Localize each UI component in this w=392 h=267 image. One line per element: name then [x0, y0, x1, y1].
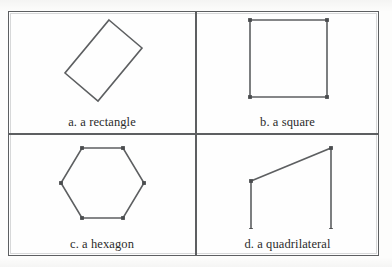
figure-cell-c: c. a hexagon [9, 135, 195, 255]
figure-cell-b: b. a square [197, 12, 378, 133]
square-svg [197, 12, 378, 107]
vertex-dot [121, 146, 125, 150]
square-outline [250, 20, 327, 97]
vertex-dot [249, 228, 253, 229]
cell-b-label: b. a square [197, 115, 378, 130]
cell-d-label: d. a quadrilateral [197, 237, 378, 252]
vertex-dot [80, 216, 84, 220]
figure-page: a. a rectangle b. a square c. a hexagon [0, 0, 392, 267]
shape-rectangle [9, 12, 195, 107]
hexagon-svg [9, 135, 195, 229]
cell-c-label: c. a hexagon [9, 237, 195, 252]
vertex-dot [325, 95, 329, 99]
vertex-dot [80, 146, 84, 150]
vertex-dot [325, 18, 329, 22]
vertex-dot [248, 95, 252, 99]
quadrilateral-svg [197, 135, 378, 229]
vertex-dot [249, 179, 253, 183]
quadrilateral-vertex-dots [249, 146, 333, 229]
vertex-dot [329, 146, 333, 150]
figure-cell-d: d. a quadrilateral [197, 135, 378, 255]
vertex-dot [329, 228, 333, 229]
square-vertex-dots [248, 18, 329, 99]
figure-cell-a: a. a rectangle [9, 12, 195, 133]
rectangle-outline [65, 20, 142, 101]
vertex-dot [59, 181, 63, 185]
shape-square [197, 12, 378, 107]
hexagon-outline [61, 148, 144, 218]
rectangle-svg [9, 12, 195, 107]
shape-hexagon [9, 135, 195, 229]
shape-quadrilateral [197, 135, 378, 229]
vertex-dot [121, 216, 125, 220]
cell-a-label: a. a rectangle [9, 115, 195, 130]
vertex-dot [142, 181, 146, 185]
vertex-dot [248, 18, 252, 22]
hexagon-vertex-dots [59, 146, 146, 220]
quadrilateral-outline [251, 148, 331, 229]
